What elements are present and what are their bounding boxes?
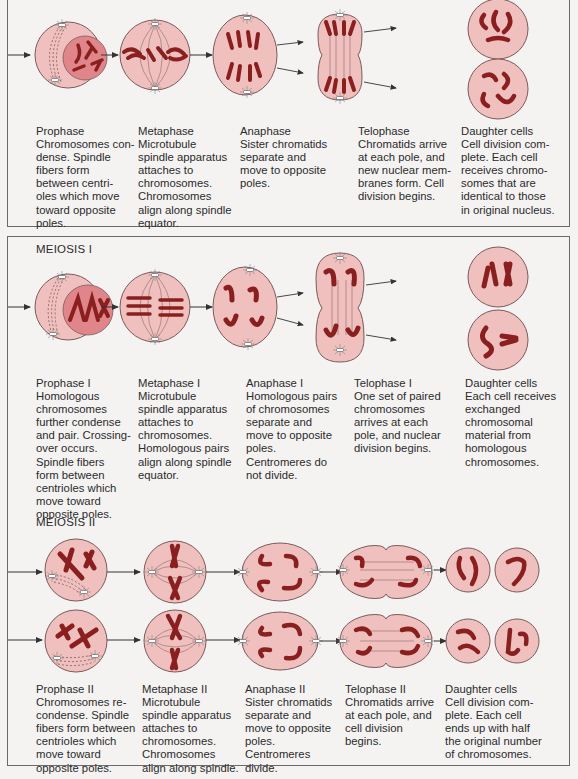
- mitosis-daughter-cell-2: [468, 59, 528, 119]
- meiosis-1-metaphase-cell: [120, 269, 190, 345]
- mitosis-telophase-description: Telophase Chromatids arrive at each pole…: [358, 125, 451, 204]
- mitosis-daughter-cell-1: [468, 0, 528, 59]
- mitosis-prophase-cell: [35, 19, 107, 88]
- meiosis-2-prophase-cell-2: [45, 610, 107, 672]
- meiosis-2-daughter-cell-1a: [446, 548, 490, 592]
- meiosis-2-daughter-cell-1b: [495, 548, 539, 592]
- meiosis-1-anaphase-description: Anaphase I Homologous pairs of chromosom…: [246, 377, 337, 482]
- mitosis-diagram: [8, 0, 528, 119]
- meiosis-1-daughter-cells-description: Daughter cells Each cell receives exchan…: [465, 377, 556, 469]
- meiosis-2-metaphase-description: Metaphase II Microtubule spindle apparat…: [142, 683, 239, 775]
- mitosis-metaphase-cell: [120, 18, 190, 94]
- mitosis-anaphase-description: Anaphase Sister chromatids separate and …: [240, 125, 327, 190]
- meiosis-2-metaphase-cell-2: [144, 610, 206, 672]
- mitosis-telophase-cell: [318, 9, 362, 104]
- meiosis-2-prophase-description: Prophase II Chromosomes re- condense. Sp…: [36, 683, 135, 775]
- meiosis-2-telophase-description: Telophase II Chromatids arrive at each p…: [345, 683, 434, 748]
- meiosis-2-diagram: [8, 539, 539, 672]
- meiosis-2-label: MEIOSIS II: [36, 516, 96, 528]
- meiosis-1-anaphase-cell: [213, 264, 277, 350]
- meiosis-2-prophase-cell-1: [45, 539, 107, 601]
- meiosis-1-telophase-description: Telophase I One set of paired chromosome…: [354, 377, 441, 456]
- meiosis-1-diagram: [8, 247, 528, 370]
- meiosis-2-metaphase-cell-1: [144, 541, 206, 603]
- mitosis-daughter-cells-description: Daughter cells Cell division com- plete.…: [461, 125, 555, 217]
- meiosis-1-telophase-cell: [316, 252, 364, 362]
- meiosis-1-prophase-cell: [35, 271, 113, 340]
- mitosis-prophase-description: Prophase Chromosomes con- dense. Spindle…: [36, 125, 135, 230]
- meiosis-2-anaphase-description: Anaphase II Sister chromatids separate a…: [245, 683, 332, 775]
- meiosis-2-telophase-cell-1: [336, 546, 435, 599]
- meiosis-2-daughter-cells-description: Daughter cells Cell division com- plete.…: [445, 683, 542, 762]
- meiosis-2-anaphase-cell-2: [236, 612, 323, 670]
- meiosis-1-daughter-cell-2: [468, 310, 528, 370]
- meiosis-1-metaphase-description: Metaphase I Microtubule spindle apparatu…: [138, 377, 232, 482]
- meiosis-1-daughter-cell-1: [468, 247, 528, 307]
- mitosis-anaphase-cell: [213, 12, 277, 98]
- meiosis-1-label: MEIOSIS I: [36, 243, 92, 255]
- meiosis-1-prophase-description: Prophase I Homologous chromosomes furthe…: [36, 377, 131, 521]
- meiosis-2-daughter-cell-2b: [495, 619, 539, 663]
- meiosis-2-daughter-cell-2a: [446, 619, 490, 663]
- meiosis-2-anaphase-cell-1: [236, 543, 323, 601]
- mitosis-metaphase-description: Metaphase Microtubule spindle apparatus …: [138, 125, 232, 230]
- meiosis-2-telophase-cell-2: [336, 615, 435, 668]
